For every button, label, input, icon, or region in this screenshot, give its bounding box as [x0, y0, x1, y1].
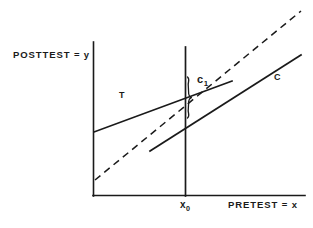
c1-brace-label: c1: [197, 74, 208, 88]
x-axis-label: PRETEST = x: [228, 200, 298, 210]
x0-subscript: 0: [186, 204, 190, 213]
y-axis-label: POSTTEST = y: [13, 50, 90, 60]
c1-subscript: 1: [204, 79, 208, 88]
treatment-line-label: T: [119, 91, 125, 100]
x0-tick-label: x0: [180, 200, 190, 212]
c1-base: c: [197, 73, 204, 85]
extended-dashed-line: [95, 11, 301, 180]
control-line-label: C: [274, 73, 281, 82]
figure-container: POSTTEST = y PRETEST = x T C x0 c1: [0, 0, 313, 228]
regression-figure-graphic: [0, 0, 313, 228]
